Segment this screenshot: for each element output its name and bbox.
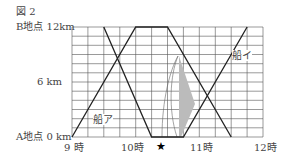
ship-a-label: 船ア	[93, 114, 113, 125]
arc-1	[162, 56, 178, 137]
arc-2	[171, 56, 178, 137]
distance-time-graph	[0, 0, 289, 165]
ship-i-label: 船イ	[232, 50, 252, 61]
shaded-region	[179, 56, 195, 137]
